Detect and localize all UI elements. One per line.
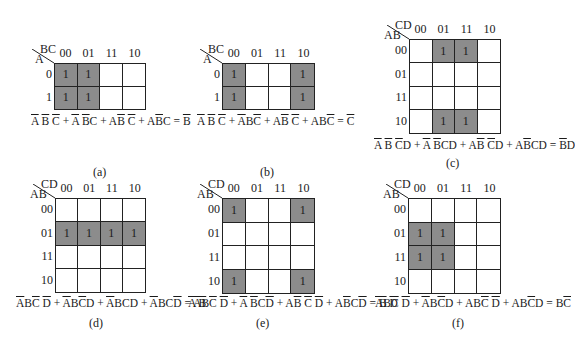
kmap-cell: 1 [291, 87, 314, 110]
kmap-cell: 1 [433, 110, 456, 133]
figure-caption: (e) [256, 316, 269, 331]
column-label: 11 [269, 46, 292, 61]
complemented-variable: A [188, 297, 196, 309]
expression-term: + AB [500, 297, 528, 309]
column-label: 01 [431, 181, 454, 196]
kmap-cell: 1 [291, 270, 314, 294]
kmap-cell: 1 [123, 222, 145, 245]
expression-term: B [383, 297, 391, 309]
row-label: 11 [388, 250, 406, 265]
complemented-variable: C [481, 297, 489, 309]
column-label: 01 [77, 46, 100, 61]
complemented-variable: C [218, 115, 226, 127]
kmap-cell: 1 [223, 87, 246, 110]
complemented-variable: B [82, 115, 90, 127]
expression-term: CD [441, 139, 457, 151]
expression-term: BCD [114, 297, 138, 309]
row-label: 00 [202, 202, 220, 217]
complemented-variable: C [253, 115, 261, 127]
boolean-expression: A B C + A BC + AB C + ABC = B [31, 115, 191, 127]
kmap-cell [223, 223, 246, 247]
kmap-cell [56, 199, 78, 222]
kmap-cell [269, 87, 292, 110]
expression-term: + [228, 297, 240, 309]
complemented-variable: C [52, 115, 60, 127]
kmap-cell: 1 [433, 40, 456, 63]
kmap-cell [123, 246, 145, 269]
column-label: 10 [478, 22, 501, 37]
complemented-variable: C [304, 297, 312, 309]
kmap-cell: 1 [291, 199, 314, 223]
complemented-variable: D [265, 297, 273, 309]
kmap-cell [478, 63, 501, 86]
kmap-cell [410, 110, 433, 133]
kmap-cell [478, 87, 501, 110]
kmap-cell: 1 [291, 64, 314, 87]
row-label: 11 [35, 249, 53, 264]
column-label: 01 [245, 46, 268, 61]
kmap-cell [269, 270, 292, 294]
kmap-cell [409, 270, 432, 294]
expression-term: + AB [299, 115, 327, 127]
kmap-cell [246, 64, 269, 87]
corner-diagonal-line [32, 49, 56, 69]
complemented-variable: A [31, 115, 39, 127]
kmap-cell: 1 [78, 222, 100, 245]
expression-term: B [24, 297, 32, 309]
complemented-variable: C [78, 297, 86, 309]
kmap-grid-a: 1111 [54, 63, 146, 110]
kmap-cell: 1 [409, 246, 432, 270]
kmap-cell: 1 [101, 222, 123, 245]
expression-term: + A [261, 115, 281, 127]
corner-diagonal-line [200, 184, 224, 204]
kmap-cell [433, 63, 456, 86]
kmap-cell [123, 199, 145, 222]
row-label: 01 [202, 226, 220, 241]
expression-term: = [171, 115, 183, 127]
complemented-variable: B [559, 139, 567, 151]
expression-term: = [547, 139, 559, 151]
expression-term: D [403, 139, 411, 151]
kmap-cell [455, 223, 478, 247]
complemented-variable: D [43, 297, 51, 309]
row-label: 10 [202, 274, 220, 289]
kmap-cell [409, 199, 432, 223]
kmap-grid-d: 1111 [55, 198, 146, 293]
row-label: 01 [388, 226, 406, 241]
expression-term: D [567, 139, 575, 151]
complemented-variable: D [220, 297, 228, 309]
kmap-cell [410, 63, 433, 86]
complemented-variable: B [433, 139, 441, 151]
kmap-cell [100, 87, 123, 110]
complemented-variable: B [281, 115, 289, 127]
expression-term: + A [323, 297, 343, 309]
complemented-variable: C [487, 139, 495, 151]
complemented-variable: C [291, 115, 299, 127]
kmap-cell [78, 199, 100, 222]
figure-caption: (a) [93, 165, 106, 180]
column-label: 01 [432, 22, 455, 37]
column-label: 11 [455, 22, 478, 37]
row-label: 11 [202, 250, 220, 265]
kmap-cell [269, 223, 292, 247]
expression-term: BC [158, 297, 173, 309]
expression-term: + AB [453, 297, 481, 309]
kmap-cell [223, 246, 246, 270]
kmap-cell [432, 199, 455, 223]
row-label: 00 [389, 43, 407, 58]
kmap-cell [101, 246, 123, 269]
complemented-variable: A [374, 139, 382, 151]
kmap-cell [246, 270, 269, 294]
expression-term: = B [543, 297, 563, 309]
kmap-cell: 1 [455, 40, 478, 63]
complemented-variable: D [492, 297, 500, 309]
expression-term: + A [135, 115, 155, 127]
figure-caption: (b) [260, 165, 274, 180]
expression-term: + [226, 115, 238, 127]
column-label: 11 [269, 181, 292, 196]
kmap-cell [101, 269, 123, 292]
expression-term: + [410, 297, 422, 309]
row-label: 00 [35, 202, 53, 217]
kmap-cell [455, 270, 478, 294]
complemented-variable: B [250, 297, 258, 309]
